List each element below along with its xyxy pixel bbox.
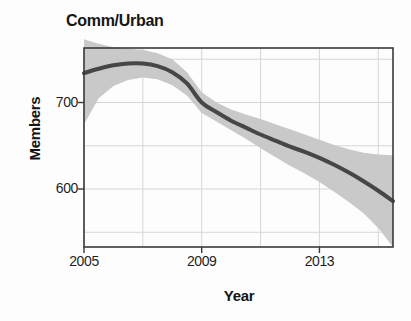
axis-ticks [78,103,319,253]
plot-canvas [0,0,411,321]
y-tick-label: 600 [38,180,78,196]
y-tick-label: 700 [38,94,78,110]
x-tick-label: 2009 [172,253,232,269]
confidence-band [84,39,393,247]
x-tick-label: 2005 [54,253,114,269]
chart-figure: Comm/Urban Members Year 700600 200520092… [0,0,411,321]
x-tick-label: 2013 [289,253,349,269]
